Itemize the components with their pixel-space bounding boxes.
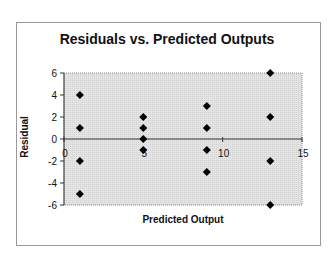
y-tick-label: 4 (51, 90, 57, 101)
x-tick-label: 10 (218, 148, 230, 159)
y-tick-label: -4 (48, 178, 57, 189)
scatter-plot: 6420-2-4-6051015 (0, 0, 334, 255)
x-tick-label: 0 (62, 148, 68, 159)
y-tick-label: -2 (48, 156, 57, 167)
y-tick-label: 2 (51, 112, 57, 123)
y-tick-label: 6 (51, 68, 57, 79)
x-tick-label: 15 (297, 148, 309, 159)
y-tick-label: 0 (51, 134, 57, 145)
y-tick-label: -6 (48, 200, 57, 211)
